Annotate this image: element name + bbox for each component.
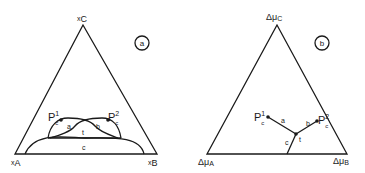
region-b-label: b xyxy=(96,123,100,130)
line-t-label: t xyxy=(299,136,301,143)
vertex-right-label: xB xyxy=(148,158,158,168)
panel-tag-a: a xyxy=(140,39,145,48)
vertex-left-label: xA xyxy=(11,158,21,168)
region-t-label: t xyxy=(82,129,84,136)
panel-b: b ΔμC ΔμA ΔμB Pc1 Pc2 a b t c xyxy=(198,12,349,167)
point2-label: Pc2 xyxy=(108,110,119,126)
vertex-right-label: ΔμB xyxy=(333,156,349,166)
line-c-label: c xyxy=(285,139,289,146)
ternary-diagrams: a xC xA xB Pc1 Pc2 a b t c b ΔμC ΔμA ΔμB… xyxy=(0,0,365,173)
vertex-left-label: ΔμA xyxy=(198,157,214,167)
panel-tag-b: b xyxy=(320,39,325,48)
line-b-label: b xyxy=(306,120,310,127)
line-a-label: a xyxy=(281,117,285,124)
region-c-label: c xyxy=(82,144,86,151)
triple-point xyxy=(294,132,298,136)
region-a-label: a xyxy=(67,123,71,130)
panel-a: a xC xA xB Pc1 Pc2 a b t c xyxy=(11,14,158,168)
critical-point-1 xyxy=(266,115,270,119)
triangle-b xyxy=(207,25,347,154)
point1-label: Pc1 xyxy=(254,110,265,126)
vertex-top-label: xC xyxy=(77,14,88,24)
critical-point-1 xyxy=(59,118,63,122)
point2-label: Pc2 xyxy=(318,113,329,129)
vertex-top-label: ΔμC xyxy=(266,12,282,22)
